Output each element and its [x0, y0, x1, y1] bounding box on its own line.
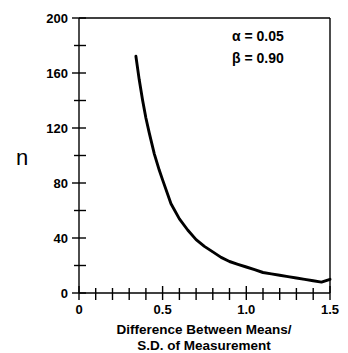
y-tick-label-120: 120: [46, 121, 68, 136]
y-axis-label: n: [16, 145, 28, 170]
x-tick-label-0: 0: [75, 302, 82, 317]
x-tick-label-1.5: 1.5: [321, 302, 339, 317]
sample-size-curve: [136, 56, 330, 282]
y-axis-tick-labels: 0 40 80 120 160 200: [46, 11, 68, 301]
annotation-alpha: α = 0.05: [232, 28, 284, 44]
chart-figure: 0 40 80 120 160 200: [0, 0, 348, 353]
x-axis-title-line1: Difference Between Means/: [117, 322, 292, 337]
x-axis-tick-labels: 0 0.5 1.0 1.5: [75, 302, 339, 317]
y-tick-label-160: 160: [46, 66, 68, 81]
y-tick-label-200: 200: [46, 11, 68, 26]
y-tick-label-40: 40: [54, 231, 68, 246]
x-axis-title-line2: S.D. of Measurement: [137, 338, 271, 353]
x-tick-label-0.5: 0.5: [154, 302, 172, 317]
annotation-block: α = 0.05 β = 0.90: [232, 28, 284, 66]
plot-frame: [79, 18, 330, 293]
x-tick-label-1.0: 1.0: [237, 302, 255, 317]
y-tick-label-0: 0: [61, 286, 68, 301]
annotation-beta: β = 0.90: [232, 50, 284, 66]
y-tick-label-80: 80: [54, 176, 68, 191]
chart-svg: 0 40 80 120 160 200: [0, 0, 348, 353]
